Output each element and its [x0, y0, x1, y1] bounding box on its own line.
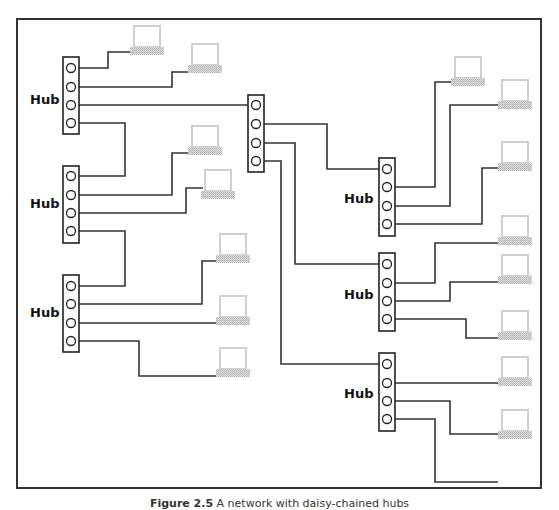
hub-label: Hub [30, 92, 59, 107]
computer-icon [216, 234, 250, 263]
hub-label: Hub [30, 305, 59, 320]
hub-label: Hub [344, 386, 373, 401]
computer-icon [498, 311, 532, 340]
figure-caption: Figure 2.5 A network with daisy-chained … [0, 497, 559, 510]
hub-label: Hub [344, 191, 373, 206]
hub-left-1 [63, 57, 79, 134]
computer-icon [216, 296, 250, 325]
cable-right1-pc3 [391, 168, 498, 224]
hub-label: Hub [30, 196, 59, 211]
cable-left2-pc2 [75, 188, 203, 213]
cable-central-right1 [260, 124, 383, 169]
computers [130, 26, 532, 439]
cable-left1-pc2 [75, 72, 190, 87]
caption-text: A network with daisy-chained hubs [217, 497, 410, 510]
cable-left3-pc3 [75, 341, 218, 376]
computer-icon [451, 57, 485, 86]
hub-left-3 [63, 275, 79, 352]
cable-right1-pc1 [391, 82, 452, 187]
hub-right-2 [379, 253, 395, 331]
hub-left-2 [63, 166, 79, 243]
caption-label: Figure 2.5 [150, 497, 213, 510]
cable-left1-left2 [75, 123, 125, 176]
computer-icon [130, 26, 164, 55]
cable-left3-pc1 [75, 261, 218, 304]
computer-icon [498, 80, 532, 109]
computer-icon [498, 255, 532, 284]
cable-right3-pc3 [391, 419, 498, 482]
cable-right2-pc2 [391, 282, 498, 301]
computer-icon [216, 348, 250, 377]
computer-icon [188, 126, 222, 155]
cable-right2-pc1 [391, 243, 498, 283]
computer-icon [498, 142, 532, 171]
computer-icon [188, 44, 222, 73]
cable-left2-left3 [75, 231, 125, 286]
cable-left1-pc1 [75, 52, 133, 68]
cable-right2-pc3 [391, 319, 498, 338]
cable-left2-pc1 [75, 153, 190, 195]
hub-right-1 [379, 158, 395, 236]
computer-icon [498, 357, 532, 386]
cable-right3-pc2 [391, 401, 498, 434]
hub-right-3 [379, 353, 395, 431]
computer-icon [201, 170, 235, 199]
hub-central [248, 95, 264, 172]
hub-label: Hub [344, 287, 373, 302]
computer-icon [498, 410, 532, 439]
computer-icon [498, 216, 532, 245]
cables [75, 52, 498, 482]
